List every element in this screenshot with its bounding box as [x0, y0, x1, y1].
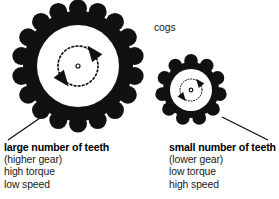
large-gear-tooth [32, 101, 50, 119]
large-gear-caption-line-3: low speed [4, 179, 109, 192]
large-gear-tooth [119, 86, 137, 104]
gear-shapes [12, 0, 226, 133]
cogs-label: cogs [154, 22, 176, 33]
large-gear-tooth [126, 47, 144, 65]
small-gear-caption-line-1: (lower gear) [169, 154, 276, 167]
small-gear-body [155, 54, 226, 125]
leader-lines [8, 117, 268, 140]
small-gear-tooth [184, 54, 198, 68]
small-gear-tooth [200, 59, 214, 73]
large-gear-caption-line-1: (higher gear) [4, 154, 109, 167]
small-gear [155, 54, 226, 125]
small-gear-caption-line-2: low torque [169, 166, 276, 179]
large-gear-tooth [19, 86, 37, 104]
large-gear-tooth [12, 67, 30, 85]
small-gear-tooth [158, 71, 172, 85]
large-gear-tooth [106, 13, 124, 31]
small-gear-tooth [168, 59, 182, 73]
large-gear-tooth [106, 101, 124, 119]
large-gear-tooth [49, 3, 67, 21]
large-gear-tooth [12, 47, 30, 65]
small-gear-tooth [192, 111, 206, 125]
large-gear-tooth [126, 67, 144, 85]
large-gear-tooth [49, 111, 67, 129]
small-gear-leader-line [222, 117, 268, 140]
diagram-canvas: cogs large number of teeth (higher gear)… [0, 0, 279, 199]
large-gear-tooth [89, 111, 107, 129]
large-gear-tooth [69, 115, 87, 133]
large-gear-caption: large number of teeth (higher gear) high… [4, 141, 109, 191]
large-gear-tooth [119, 28, 137, 46]
small-gear-tooth [213, 87, 227, 101]
small-gear-tooth [162, 102, 176, 116]
large-gear-caption-line-2: high torque [4, 166, 109, 179]
small-gear-caption: small number of teeth (lower gear) low t… [169, 141, 276, 191]
small-gear-caption-heading: small number of teeth [169, 141, 276, 154]
large-gear-tooth [19, 28, 37, 46]
large-gear-caption-heading: large number of teeth [4, 141, 109, 154]
large-gear-tooth [32, 13, 50, 31]
large-gear-leader-line [8, 118, 40, 140]
small-gear-tooth [211, 71, 225, 85]
small-gear-tooth [176, 111, 190, 125]
small-gear-tooth [155, 87, 169, 101]
large-gear [12, 0, 143, 133]
large-gear-tooth [69, 0, 87, 17]
small-gear-caption-line-3: high speed [169, 179, 276, 192]
small-gear-tooth [206, 102, 220, 116]
large-gear-body [12, 0, 143, 133]
large-gear-tooth [89, 3, 107, 21]
